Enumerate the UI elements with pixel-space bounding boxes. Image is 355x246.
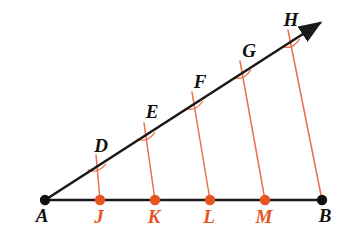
label-f: F: [193, 71, 207, 92]
label-e: E: [145, 101, 159, 122]
point-marker-m: [260, 195, 270, 205]
point-marker-b: [317, 195, 327, 205]
figure-canvas: DEFGH AJKLMB: [0, 0, 355, 246]
label-h: H: [283, 9, 300, 30]
point-marker-l: [205, 195, 215, 205]
label-l: L: [202, 206, 215, 227]
base-point-labels: AJKLMB: [35, 205, 332, 227]
ray-ah: [45, 23, 320, 200]
point-marker-j: [95, 195, 105, 205]
point-marker-a: [40, 195, 50, 205]
transversal-bh: [283, 30, 322, 200]
transversal-mg: [234, 61, 266, 200]
label-d: D: [93, 135, 108, 156]
upper-ray-ah: [45, 23, 320, 200]
label-a: A: [35, 205, 49, 226]
point-marker-k: [150, 195, 160, 205]
label-g: G: [242, 40, 256, 61]
geometry-diagram: DEFGH AJKLMB: [0, 0, 355, 246]
label-b: B: [318, 205, 332, 226]
transversal-lines: [88, 30, 322, 200]
label-k: K: [147, 206, 162, 227]
ray-point-labels: DEFGH: [93, 9, 299, 156]
label-m: M: [255, 206, 274, 227]
label-j: J: [93, 206, 104, 227]
